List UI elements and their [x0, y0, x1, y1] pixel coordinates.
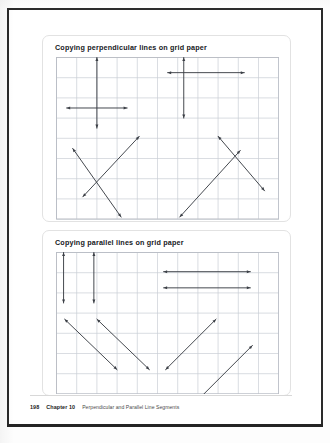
page-footer: 198 Chapter 10 Perpendicular and Paralle… [30, 401, 310, 413]
scanned-page: Copying perpendicular lines on grid pape… [0, 0, 330, 443]
panel-copying-parallel-lines: Copying parallel lines on grid paper [42, 230, 291, 396]
perpendicular-figure-svg [56, 57, 279, 220]
footer-page-number: 198 [30, 404, 39, 410]
footer-divider [30, 395, 292, 396]
figure-cross-right [168, 58, 245, 119]
panel-copying-perpendicular-lines: Copying perpendicular lines on grid pape… [42, 35, 291, 222]
figure-x-cross-right [180, 136, 265, 217]
grid-paper-perpendicular [56, 57, 278, 212]
figure-x-cross-left [73, 136, 140, 217]
grid-lines [56, 58, 278, 220]
page-bottom-edge [7, 424, 323, 427]
figure-diagonal-up-pair [166, 319, 253, 394]
page-content: Copying perpendicular lines on grid pape… [10, 11, 320, 424]
figure-cross-left [67, 58, 128, 129]
parallel-figure-svg [56, 252, 279, 394]
footer-chapter-title: Perpendicular and Parallel Line Segments [82, 404, 179, 410]
figure-diagonal-down-pair [65, 319, 150, 369]
panel-title-perpendicular: Copying perpendicular lines on grid pape… [55, 43, 207, 52]
grid-lines [57, 252, 279, 393]
panel-title-parallel: Copying parallel lines on grid paper [55, 238, 184, 247]
figure-horizontal-pair [164, 270, 251, 289]
grid-paper-parallel [56, 252, 278, 386]
figure-vertical-pair [62, 252, 95, 302]
footer-chapter-label: Chapter 10 [46, 404, 75, 410]
